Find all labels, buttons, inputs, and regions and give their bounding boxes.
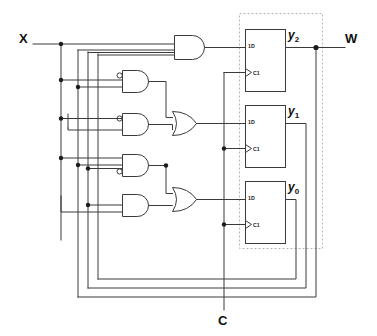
junction-fb-and4-a <box>76 163 80 167</box>
wire-feedback-to-and3-lower <box>68 128 123 130</box>
junction-x-and4 <box>59 156 63 160</box>
junction-clock-y0 <box>222 222 226 226</box>
or-gate-2-body <box>173 188 197 212</box>
wire-and4-out-to-or2 <box>149 166 173 194</box>
flipflop-y2: 1D C1 <box>246 30 286 92</box>
label-state-y0: y0 <box>287 180 300 196</box>
junction-and4-out <box>164 163 168 167</box>
junction-x-top <box>59 42 63 46</box>
and-gate-5 <box>123 195 149 217</box>
label-output-w: W <box>345 31 358 46</box>
label-state-y2: y2 <box>287 28 300 44</box>
label-input-c: C <box>218 313 228 328</box>
flipflop-y1: 1D C1 <box>246 106 286 168</box>
flipflop-y1-body <box>246 106 286 168</box>
circuit-schematic: 1D C1 1D C1 1D C1 <box>0 0 377 336</box>
label-state-y0-sub: 0 <box>295 187 300 196</box>
flipflop-y0-body <box>246 182 286 244</box>
and-gate-4-input-bubble-icon <box>117 169 122 174</box>
and-gate-3-body <box>123 114 149 136</box>
flipflop-y0-clock-pin-label: C1 <box>253 222 260 228</box>
and-gate-3 <box>117 114 149 136</box>
label-input-x: X <box>19 31 28 46</box>
flipflop-y2-clock-pin-label: C1 <box>253 70 260 76</box>
and-gate-2-body <box>123 71 149 93</box>
circuit-diagram-canvas: 1D C1 1D C1 1D C1 <box>0 0 377 336</box>
label-state-y1-sub: 1 <box>295 111 300 120</box>
junction-x-and3 <box>59 116 63 120</box>
and-gate-5-body <box>123 195 149 217</box>
and-gate-1-body <box>175 36 205 60</box>
junction-fb-and5 <box>86 203 90 207</box>
or-gate-1 <box>173 112 197 136</box>
or-gate-1-body <box>173 112 197 136</box>
svg-text:y1: y1 <box>287 104 300 120</box>
flipflop-y1-clock-pin-label: C1 <box>253 146 260 152</box>
label-state-y1: y1 <box>287 104 300 120</box>
junction-x-and2 <box>59 78 63 82</box>
flipflop-y1-data-pin-label: 1D <box>248 119 255 125</box>
flipflop-y2-body <box>246 30 286 92</box>
flipflop-y0: 1D C1 <box>246 182 286 244</box>
junction-w-output <box>313 45 318 50</box>
or-gate-2 <box>173 188 197 212</box>
junction-clock-y1 <box>222 146 226 150</box>
svg-text:y2: y2 <box>287 28 300 44</box>
and-gate-1 <box>175 36 205 60</box>
label-state-y2-sub: 2 <box>295 35 300 44</box>
wire-and2-out-to-or1 <box>149 82 173 118</box>
wire-and3-out-to-or1 <box>149 125 173 130</box>
junction-fb-and4-b <box>86 166 90 170</box>
wire-x-tap-bottom <box>61 196 123 212</box>
and-gate-2 <box>117 71 149 93</box>
junction-fb-and2 <box>76 85 80 89</box>
flipflop-y2-data-pin-label: 1D <box>248 43 255 49</box>
and-gate-2-input-bubble-icon <box>117 73 122 78</box>
svg-text:y0: y0 <box>287 180 300 196</box>
flipflop-y0-data-pin-label: 1D <box>248 195 255 201</box>
and-gate-4-body <box>123 155 149 177</box>
